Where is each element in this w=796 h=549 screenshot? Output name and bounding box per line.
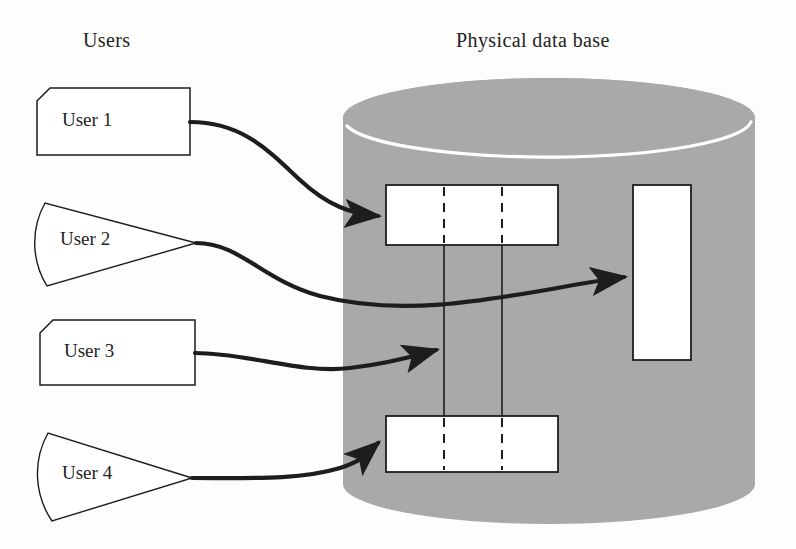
record-bottom-body <box>386 416 558 472</box>
record-vertical <box>633 185 691 360</box>
users-title: Users <box>83 29 131 52</box>
diagram-graphics <box>0 0 796 549</box>
user-3-label: User 3 <box>64 340 114 362</box>
record-vertical-body <box>633 185 691 360</box>
record-bottom <box>386 416 558 472</box>
user-2-node[interactable] <box>35 203 196 286</box>
user-1-shape[interactable] <box>37 88 190 155</box>
user-4-shape[interactable] <box>37 433 192 521</box>
record-top <box>386 185 558 245</box>
user-4-label: User 4 <box>62 462 112 484</box>
user-2-label: User 2 <box>60 228 110 250</box>
user-1-node[interactable] <box>37 88 190 155</box>
diagram-canvas: Users Physical data base User 1 User 2 U… <box>0 0 796 549</box>
user-2-shape[interactable] <box>35 203 196 286</box>
record-top-body <box>386 185 558 245</box>
user-1-label: User 1 <box>62 109 112 131</box>
database-title: Physical data base <box>456 29 610 52</box>
user-4-node[interactable] <box>37 433 192 521</box>
